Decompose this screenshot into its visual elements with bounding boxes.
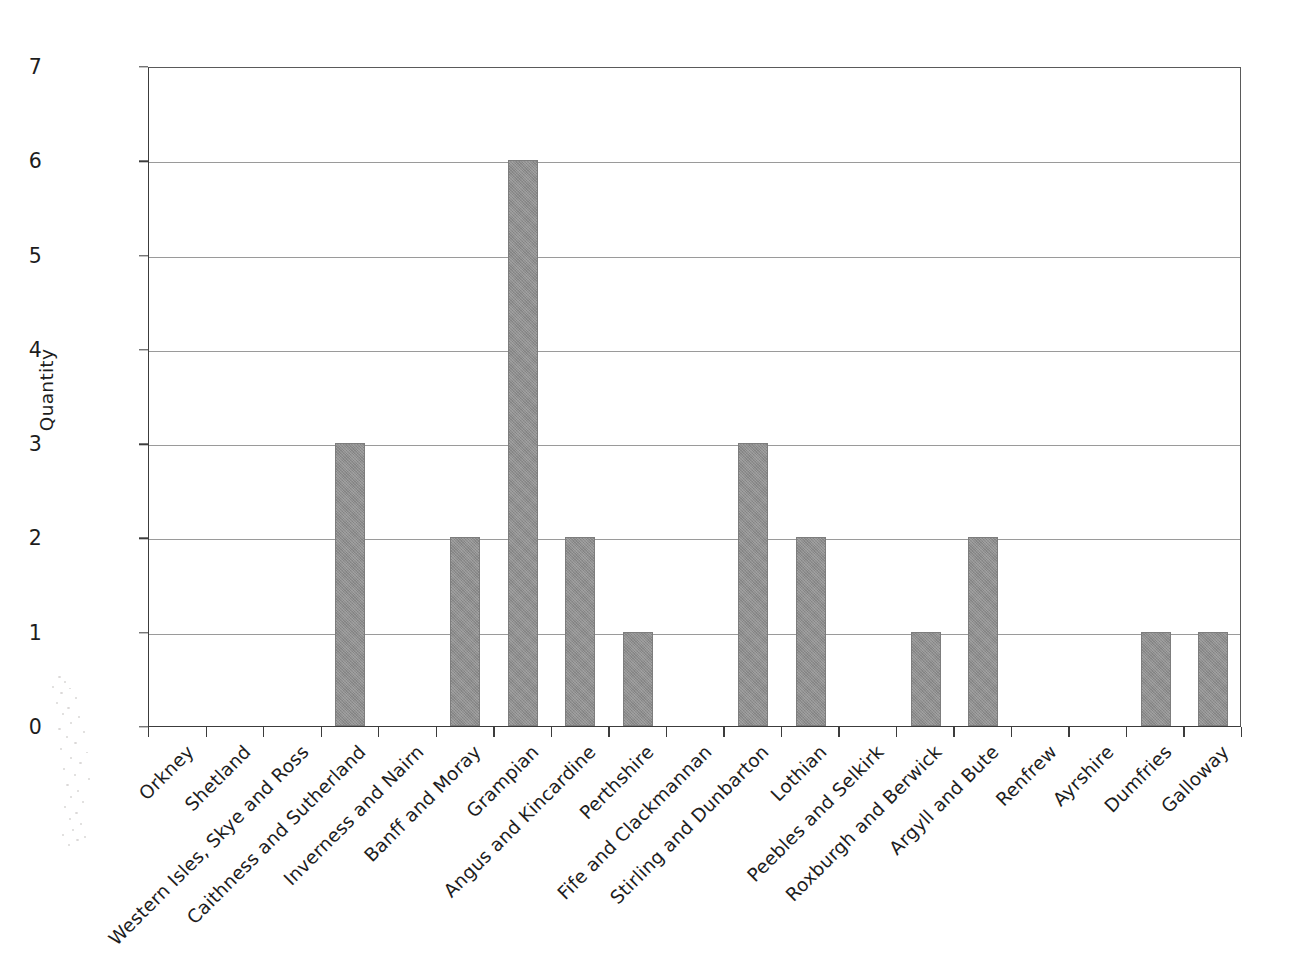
y-axis-tick-mark [139, 66, 148, 67]
x-axis-tick-mark [436, 727, 437, 737]
x-axis-tick-mark [493, 727, 494, 737]
y-axis-tick-label: 6 [2, 149, 42, 173]
x-axis-tick-mark [1126, 727, 1127, 737]
scan-speckle [74, 774, 76, 776]
bar [796, 537, 826, 726]
x-axis-tick-mark [608, 727, 609, 737]
gridline [149, 445, 1240, 446]
scan-speckle [62, 713, 64, 715]
y-axis-tick-label: 2 [2, 526, 42, 550]
scan-speckle [56, 702, 58, 704]
scan-speckle [70, 757, 72, 759]
y-axis-tick-label: 4 [2, 338, 42, 362]
scan-speckle [72, 829, 74, 831]
scan-speckle [52, 686, 54, 688]
bar [508, 160, 538, 726]
x-axis-tick-mark [551, 727, 552, 737]
y-axis-tick-mark [139, 349, 148, 350]
x-axis-tick-mark [263, 727, 264, 737]
x-axis-tick-mark [378, 727, 379, 737]
x-axis-tick-mark [148, 727, 149, 737]
x-axis-tick-mark [896, 727, 897, 737]
bar [911, 632, 941, 726]
gridline [149, 539, 1240, 540]
scan-speckle [82, 801, 84, 803]
scan-speckle [86, 752, 88, 753]
scan-speckle [66, 784, 69, 786]
scan-speckle [68, 844, 70, 846]
x-axis-category-label: Argyll and Bute [885, 741, 1003, 859]
x-axis-tick-mark [1068, 727, 1069, 737]
plot-area [148, 67, 1241, 727]
gridline [149, 351, 1240, 352]
x-axis-tick-mark [321, 727, 322, 737]
x-axis-tick-mark [666, 727, 667, 737]
scan-speckle [58, 676, 61, 678]
x-axis-category-label: Renfrew [991, 741, 1060, 810]
scan-speckle [76, 839, 79, 841]
bar [450, 537, 480, 726]
y-axis-tick-label: 7 [2, 55, 42, 79]
bar [335, 443, 365, 726]
y-axis-tick-mark [139, 538, 148, 539]
y-axis-tick-label: 1 [2, 621, 42, 645]
y-axis-tick-label: 0 [2, 715, 42, 739]
x-axis-tick-mark [953, 727, 954, 737]
scan-speckle [62, 834, 64, 836]
x-axis-tick-mark [1011, 727, 1012, 737]
scan-speckle [66, 736, 68, 738]
y-axis-tick-mark [139, 726, 148, 727]
scan-speckle [69, 688, 71, 689]
y-axis-tick-label: 5 [2, 244, 42, 268]
scan-speckle [67, 707, 70, 709]
scan-speckle [84, 836, 86, 838]
bar [1198, 632, 1228, 726]
scan-speckle [75, 697, 77, 699]
scan-speckle [75, 812, 78, 814]
scan-speckle [83, 731, 85, 733]
y-axis-tick-mark [139, 443, 148, 444]
scan-speckle [78, 716, 80, 718]
scan-speckle [74, 742, 77, 744]
scan-speckle [69, 818, 71, 820]
scan-speckle [60, 748, 62, 750]
scan-speckle [64, 806, 66, 808]
gridline [149, 634, 1240, 635]
bar [1141, 632, 1171, 726]
scan-speckle [63, 768, 65, 770]
x-axis-tick-mark [206, 727, 207, 737]
bar [738, 443, 768, 726]
scan-speckle [58, 728, 61, 730]
bar [623, 632, 653, 726]
x-axis-tick-mark [838, 727, 839, 737]
scan-speckle [77, 790, 79, 792]
x-axis-tick-mark [1183, 727, 1184, 737]
gridline [149, 257, 1240, 258]
y-axis-tick-mark [139, 255, 148, 256]
scan-speckle [70, 722, 72, 724]
bar [565, 537, 595, 726]
y-axis-tick-label: 3 [2, 432, 42, 456]
x-axis-tick-mark [723, 727, 724, 737]
y-axis-tick-mark [139, 161, 148, 162]
y-axis-tick-mark [139, 632, 148, 633]
bar-chart-figure: Quantity 01234567 OrkneyShetlandWestern … [0, 0, 1301, 961]
x-axis-tick-mark [781, 727, 782, 737]
scan-speckle [70, 796, 72, 798]
scan-speckle [80, 823, 82, 825]
bar [968, 537, 998, 726]
scan-speckle [64, 681, 66, 683]
scan-speckle [88, 778, 90, 780]
scan-speckle [60, 692, 63, 694]
x-axis-tick-mark [1241, 727, 1242, 737]
gridline [149, 162, 1240, 163]
scan-speckle [79, 762, 82, 764]
